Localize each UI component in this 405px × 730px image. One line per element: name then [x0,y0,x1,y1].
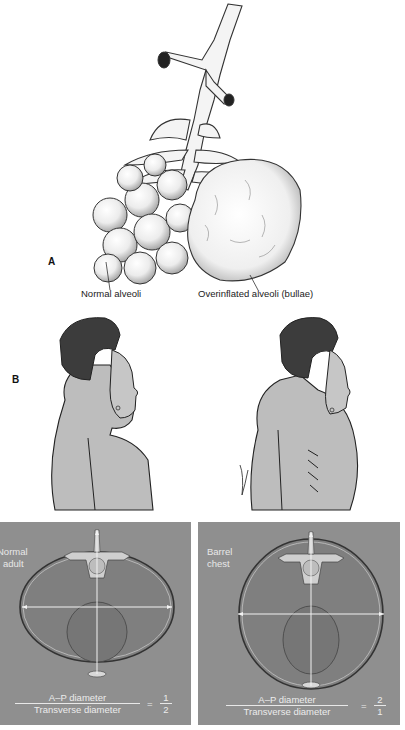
bronchus-opening-upper [158,52,170,68]
cross-section-normal-panel: Normal adult A–P diameter Transverse dia… [0,522,191,725]
panel-a-letter: A [48,256,55,267]
normal-profile-figure [40,310,180,520]
label-overinflated-alveoli: Overinflated alveoli (bullae) [198,288,313,299]
barrel-chest-profile-figure [240,310,390,520]
artist-signature [240,465,248,495]
barrel-equals-sign: = [361,700,367,711]
label-normal-alveoli: Normal alveoli [81,288,141,299]
normal-ratio-denominator: 2 [160,704,172,715]
barrel-ratio-fraction: A–P diameter Transverse diameter [226,694,348,717]
normal-ratio-fraction: A–P diameter Transverse diameter [15,692,140,715]
normal-ratio-numerator: 1 [160,692,172,703]
cross-section-barrel-panel: Barrel chest A–P diameter Transverse dia… [198,522,400,725]
barrel-numerator-label: A–P diameter [226,694,348,705]
panel-b-letter: B [12,374,19,385]
bronchus-opening-lower [224,94,234,106]
barrel-denominator-label: Transverse diameter [226,706,348,717]
barrel-ratio-denominator: 1 [374,706,386,717]
bulla [188,159,301,281]
normal-thorax-cross-section [0,522,191,672]
normal-numerator-label: A–P diameter [15,692,140,703]
bronchiole-alveoli-illustration [0,0,405,300]
normal-denominator-label: Transverse diameter [15,704,140,715]
normal-ratio-value: 1 2 [160,692,172,715]
barrel-ratio-numerator: 2 [374,694,386,705]
barrel-thorax-cross-section [198,522,400,692]
normal-equals-sign: = [147,698,153,709]
barrel-ratio-value: 2 1 [374,694,386,717]
